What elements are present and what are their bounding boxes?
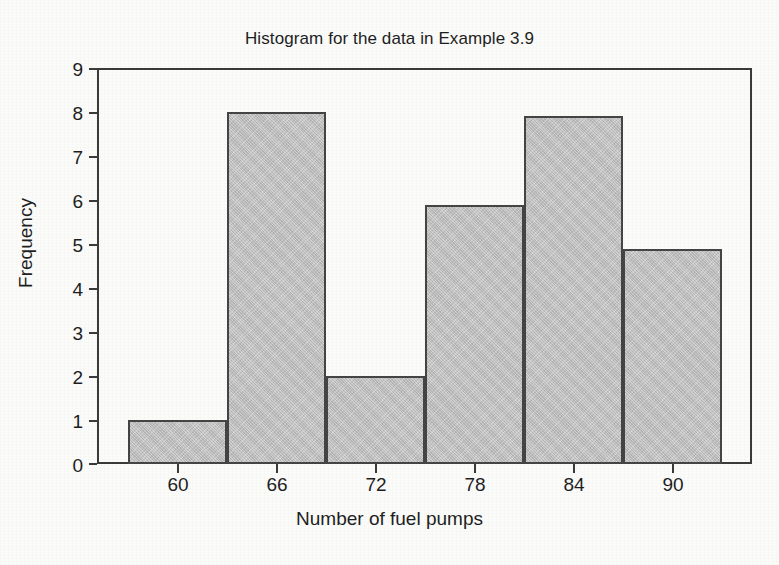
y-tick-mark-1: [89, 420, 97, 422]
y-tick-label-8: 8: [57, 104, 83, 123]
histogram-bar-66: [227, 112, 326, 464]
x-tick-label-72: 72: [346, 474, 406, 496]
x-tick-label-78: 78: [445, 474, 505, 496]
y-tick-mark-7: [89, 156, 97, 158]
y-tick-label-6: 6: [57, 192, 83, 211]
y-tick-mark-9: [89, 68, 97, 70]
histogram-bar-78: [425, 205, 524, 464]
x-tick-label-90: 90: [643, 474, 703, 496]
x-tick-label-84: 84: [544, 474, 604, 496]
histogram-bar-90: [623, 249, 722, 464]
histogram-bar-84: [524, 116, 623, 464]
y-tick-label-7: 7: [57, 148, 83, 167]
x-tick-label-60: 60: [148, 474, 208, 496]
chart-title: Histogram for the data in Example 3.9: [0, 29, 779, 49]
y-tick-mark-0: [89, 463, 97, 465]
y-tick-label-4: 4: [57, 280, 83, 299]
y-tick-label-5: 5: [57, 236, 83, 255]
x-tick-mark-90: [672, 464, 674, 473]
y-tick-mark-5: [89, 244, 97, 246]
y-tick-mark-6: [89, 200, 97, 202]
y-tick-label-2: 2: [57, 368, 83, 387]
histogram-bar-60: [128, 420, 227, 464]
x-tick-label-66: 66: [247, 474, 307, 496]
y-axis-title: Frequency: [15, 163, 37, 323]
y-tick-label-9: 9: [57, 60, 83, 79]
y-axis-tick-labels: 9 8 7 6 5 4 3 2 1 0: [33, 0, 83, 565]
x-tick-mark-60: [177, 464, 179, 473]
x-tick-mark-72: [375, 464, 377, 473]
y-tick-label-1: 1: [57, 412, 83, 431]
plot-area: [97, 68, 752, 464]
y-tick-label-3: 3: [57, 324, 83, 343]
x-axis-title: Number of fuel pumps: [0, 508, 779, 530]
y-tick-mark-2: [89, 376, 97, 378]
histogram-bar-72: [326, 376, 425, 464]
y-tick-mark-8: [89, 112, 97, 114]
y-tick-mark-3: [89, 332, 97, 334]
x-tick-mark-78: [474, 464, 476, 473]
y-tick-mark-4: [89, 288, 97, 290]
x-tick-mark-66: [276, 464, 278, 473]
y-tick-label-0: 0: [57, 456, 83, 475]
x-tick-mark-84: [573, 464, 575, 473]
